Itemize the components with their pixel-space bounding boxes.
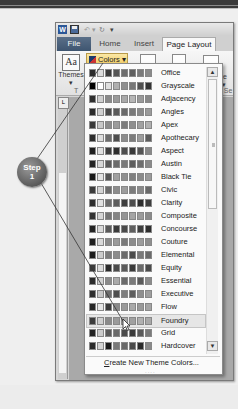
mouse-pointer-icon [122,318,131,333]
callout-lines [0,0,238,409]
step-number: 1 [17,172,47,181]
step-label: Step [17,163,47,172]
step-callout: Step 1 [17,157,47,187]
page-bottom [0,385,238,409]
